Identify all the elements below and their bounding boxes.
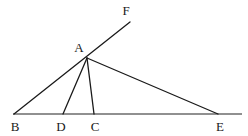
geometry-figure: F A B D C E <box>0 0 248 136</box>
segment-B-F <box>14 22 130 114</box>
point-label-A: A <box>74 41 83 54</box>
point-label-E: E <box>216 120 224 133</box>
figure-canvas <box>0 0 248 136</box>
point-label-F: F <box>122 4 129 17</box>
point-label-B: B <box>11 120 20 133</box>
segment-A-C <box>87 58 94 114</box>
segment-A-E <box>87 58 218 114</box>
point-label-D: D <box>56 120 65 133</box>
point-label-C: C <box>91 120 100 133</box>
